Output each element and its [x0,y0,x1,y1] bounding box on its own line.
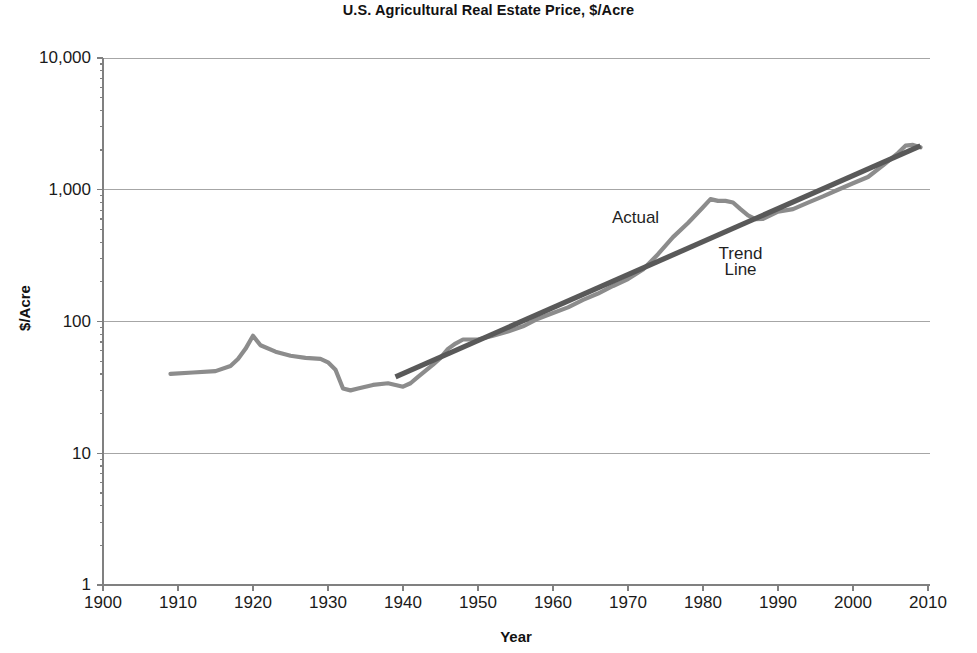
y-tick-label: 10 [72,444,91,463]
y-tick-label: 10,000 [39,48,91,67]
y-tick-label: 1 [82,575,91,594]
series-annotations: ActualTrendLine [612,208,763,279]
y-tick-label: 1,000 [48,180,91,199]
x-tick-label: 1920 [234,593,272,612]
y-axis-ticks: 1101001,00010,000 [39,48,103,594]
series-line-actual [171,145,921,390]
x-tick-label: 2010 [909,593,947,612]
x-tick-label: 1980 [684,593,722,612]
x-tick-label: 1910 [159,593,197,612]
x-tick-label: 1930 [309,593,347,612]
annotation-label-actual: Actual [612,208,659,227]
y-axis-title: $/Acre [16,285,33,331]
x-tick-label: 1990 [759,593,797,612]
annotation-label-line: Line [724,260,756,279]
x-axis-ticks: 1900191019201930194019501960197019801990… [84,585,947,612]
chart-container: U.S. Agricultural Real Estate Price, $/A… [0,0,977,653]
y-tick-label: 100 [63,312,91,331]
chart-plot-area: 1101001,00010,000 1900191019201930194019… [0,0,977,653]
x-tick-label: 1970 [609,593,647,612]
x-tick-label: 1950 [459,593,497,612]
x-tick-label: 1940 [384,593,422,612]
x-tick-label: 1900 [84,593,122,612]
x-tick-label: 1960 [534,593,572,612]
x-tick-label: 2000 [834,593,872,612]
x-axis-title: Year [500,628,532,645]
series-line-trend-line [396,146,921,377]
data-series-group [171,145,921,390]
